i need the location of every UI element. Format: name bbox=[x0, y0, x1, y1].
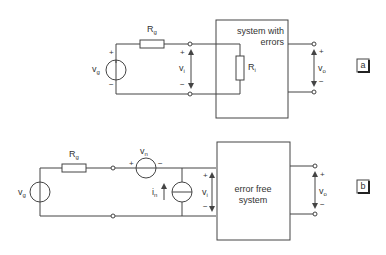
system-with-errors-label: system witherrors bbox=[222, 26, 284, 48]
label-ri: Ri bbox=[248, 63, 256, 73]
label-vi-a: vi bbox=[179, 64, 185, 74]
minus-sign: − bbox=[180, 81, 185, 89]
minus-sign: − bbox=[320, 201, 325, 209]
plus-sign: + bbox=[203, 172, 208, 180]
label-vi-b: vi bbox=[202, 188, 208, 198]
terminal bbox=[188, 92, 192, 96]
plus-sign: + bbox=[319, 48, 324, 56]
input-resistor bbox=[236, 56, 244, 80]
label-vn: vn bbox=[140, 147, 148, 157]
minus-sign: − bbox=[319, 78, 324, 86]
terminal bbox=[188, 42, 192, 46]
label-vo-b: vo bbox=[319, 187, 327, 197]
error-free-system-label: error freesystem bbox=[222, 184, 284, 206]
minus-sign: − bbox=[158, 160, 163, 168]
figure-tag-b: b bbox=[357, 180, 369, 193]
label-vo-a: vo bbox=[318, 64, 326, 74]
plus-sign: + bbox=[320, 171, 325, 179]
minus-sign: − bbox=[203, 203, 208, 211]
circuit-diagrams bbox=[0, 0, 386, 255]
minus-sign: − bbox=[109, 81, 114, 89]
plus-sign: + bbox=[129, 160, 134, 168]
plus-sign: + bbox=[109, 49, 114, 57]
label-rg-b: Rg bbox=[69, 150, 79, 160]
label-in: in bbox=[152, 188, 157, 198]
plus-sign: + bbox=[180, 49, 185, 57]
label-vg-a: vg bbox=[92, 65, 100, 75]
source-resistor-a bbox=[140, 40, 164, 48]
source-resistor-b bbox=[62, 164, 86, 172]
figure-tag-a: a bbox=[357, 59, 369, 72]
label-vg-b: vg bbox=[18, 188, 26, 198]
label-rg-a: Rg bbox=[147, 25, 157, 35]
